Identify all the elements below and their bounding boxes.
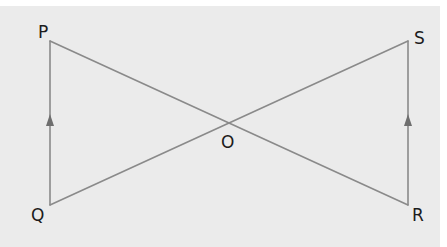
geometry-diagram: P S O Q R — [0, 0, 447, 247]
parallel-arrow-icon-left — [46, 114, 54, 126]
label-o: O — [221, 132, 234, 152]
label-p: P — [38, 22, 48, 42]
label-q: Q — [31, 205, 44, 225]
parallel-arrow-icon-right — [404, 114, 412, 126]
label-s: S — [414, 28, 425, 48]
label-r: R — [412, 205, 424, 225]
